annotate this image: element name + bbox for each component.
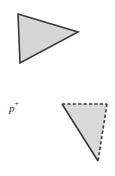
point-label-p: p+ — [9, 101, 19, 114]
point-label-p-base: p — [9, 102, 15, 114]
geometry-figure-canvas — [0, 0, 115, 176]
point-label-p-superscript: + — [15, 99, 20, 108]
